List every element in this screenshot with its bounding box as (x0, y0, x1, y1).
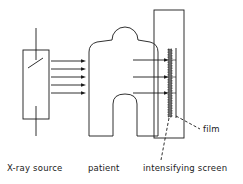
xray-source-label: X-ray source (7, 163, 63, 173)
intensifying-screen (168, 49, 172, 117)
intensifying-screen-label: intensifying screen (143, 163, 227, 173)
film-leader-line (176, 116, 200, 129)
transmitted-xray-arrows (133, 60, 165, 93)
xray-diagram (0, 0, 243, 184)
incident-xray-arrows (51, 61, 82, 93)
xray-source-icon (23, 28, 49, 136)
patient-icon (89, 27, 158, 136)
patient-label: patient (88, 163, 120, 173)
film-label: film (203, 124, 220, 134)
screen-leader-line (161, 118, 169, 160)
